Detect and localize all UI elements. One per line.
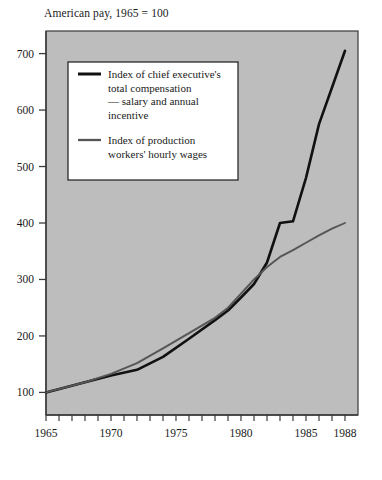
y-tick-label: 700 bbox=[17, 48, 35, 60]
y-tick-label: 200 bbox=[17, 330, 35, 342]
legend-label-line: — salary and annual bbox=[107, 95, 199, 107]
line-chart: 100200300400500600700 196519701975198019… bbox=[0, 0, 382, 480]
x-tick-label: 1965 bbox=[35, 427, 58, 439]
x-tick-label: 1975 bbox=[165, 427, 188, 439]
y-tick-label: 500 bbox=[17, 161, 35, 173]
legend-label-line: Index of production bbox=[108, 134, 196, 146]
y-tick-label: 400 bbox=[17, 217, 35, 229]
y-tick-label: 300 bbox=[17, 273, 35, 285]
y-tick-label: 600 bbox=[17, 104, 35, 116]
x-tick-label: 1985 bbox=[295, 427, 318, 439]
x-tick-label: 1970 bbox=[100, 427, 123, 439]
legend-label-line: Index of chief executive's bbox=[108, 68, 221, 80]
chart-legend: Index of chief executive'stotal compensa… bbox=[68, 62, 238, 180]
legend-label-line: incentive bbox=[108, 109, 148, 121]
legend-label-line: total compensation bbox=[108, 82, 192, 94]
chart-page: American pay, 1965 = 100 100200300400500… bbox=[0, 0, 382, 480]
x-axis-ticks: 196519701975198019851988 bbox=[35, 415, 357, 439]
x-tick-label: 1988 bbox=[334, 427, 357, 439]
x-tick-label: 1980 bbox=[230, 427, 253, 439]
legend-label-line: workers' hourly wages bbox=[108, 148, 207, 160]
y-axis-ticks: 100200300400500600700 bbox=[17, 48, 46, 399]
y-tick-label: 100 bbox=[17, 386, 35, 398]
